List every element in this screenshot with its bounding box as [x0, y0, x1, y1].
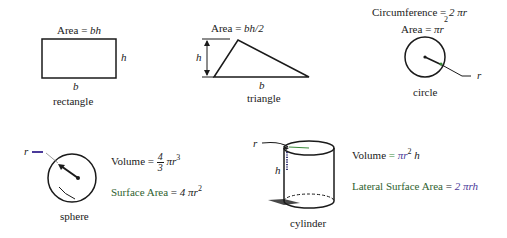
formula-exponent: 2 [444, 15, 448, 24]
rectangle-caption: rectangle [53, 95, 93, 107]
formula-equals: = [171, 186, 177, 198]
formula-exponent: 2 [198, 184, 202, 193]
sphere-surface-formula: Surface Area = 4 πr2 [111, 184, 202, 198]
sphere-radius-leader [46, 153, 58, 163]
triangle-caption: triangle [247, 92, 281, 104]
triangle-area-formula: Area = bh/2 [211, 22, 264, 34]
sphere-radius-label: r [24, 145, 28, 157]
formula-equals: = [235, 22, 241, 34]
formula-equals: = [425, 23, 431, 35]
formula-expression: bh [90, 24, 101, 36]
rectangle-base-label: b [73, 80, 79, 92]
sphere-shape [48, 154, 96, 202]
formula-label: Volume [352, 149, 386, 161]
cylinder-lateral-formula: Lateral Surface Area = 2 πrh [352, 180, 478, 192]
formula-label: Volume [111, 155, 145, 167]
circle-circumference-formula: Circumference = 2 πr [372, 6, 467, 18]
formula-exponent: 3 [176, 153, 180, 162]
fraction-denominator: 3 [157, 163, 164, 173]
triangle-arrowhead-up [204, 40, 210, 46]
formula-equals: = [389, 149, 395, 161]
formula-equals: = [148, 155, 154, 167]
rectangle-height-label: h [121, 51, 127, 63]
formula-exponent: 2 [408, 147, 412, 156]
formula-equals: = [81, 24, 87, 36]
cylinder-radius-label: r [253, 137, 257, 149]
formula-expression: 2 πrh [455, 180, 478, 192]
volume-fraction: 43 [157, 152, 164, 173]
sphere-radius-line [61, 166, 78, 178]
triangle-base-label: b [259, 79, 265, 91]
circle-radius-leader [442, 65, 471, 76]
triangle-height-label: h [196, 51, 202, 63]
formula-label: Area [401, 23, 422, 35]
cylinder-height-label: h [275, 164, 281, 176]
cylinder-caption: cylinder [290, 217, 326, 229]
formula-label: Area [211, 22, 232, 34]
circle-area-formula: Area = πr2 [401, 21, 448, 35]
cylinder-radius-line [289, 147, 309, 148]
sphere-caption: sphere [60, 210, 89, 222]
formula-expression: πr [398, 149, 408, 161]
sphere-volume-formula: Volume = 43 πr3 [111, 152, 180, 173]
formula-expression: πr [167, 155, 177, 167]
formula-label: Circumference [372, 6, 437, 18]
formula-label: Surface Area [111, 186, 168, 198]
formula-tail: h [414, 149, 420, 161]
formula-label: Area [57, 24, 78, 36]
rectangle-area-formula: Area = bh [57, 24, 101, 36]
formula-expression: 4 πr [180, 186, 198, 198]
formula-expression: 2 πr [449, 6, 467, 18]
sphere-equator-hint [59, 187, 75, 199]
formula-expression: πr [434, 23, 444, 35]
cylinder-base-shadow [268, 199, 300, 205]
formula-expression: bh/2 [244, 22, 264, 34]
circle-radius-marker [439, 62, 442, 65]
formula-label: Lateral Surface Area [352, 180, 443, 192]
circle-caption: circle [413, 86, 437, 98]
circle-radius-label: r [477, 69, 481, 81]
cylinder-volume-formula: Volume = πr2 h [352, 147, 420, 161]
triangle-arrowhead-down [204, 70, 210, 76]
formula-equals: = [446, 180, 452, 192]
triangle-shape [214, 40, 309, 77]
rectangle-shape [42, 39, 116, 78]
cylinder-bottom-back [284, 194, 334, 201]
